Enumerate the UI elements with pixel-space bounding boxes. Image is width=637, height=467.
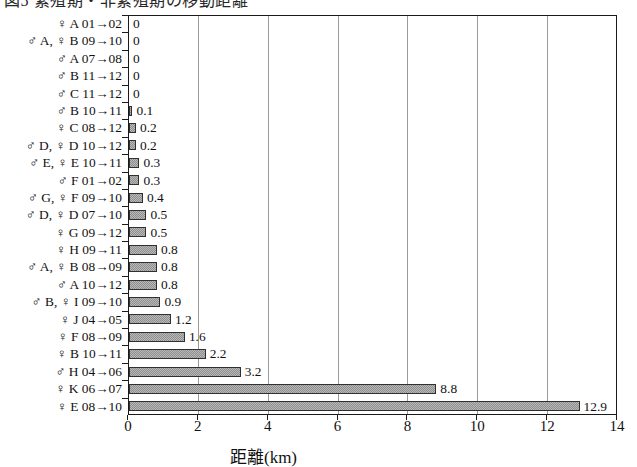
y-axis-tick bbox=[122, 137, 128, 138]
x-axis-title-text: 距離(km) bbox=[230, 443, 297, 467]
bar-row-label: ♂ A 07→08 bbox=[0, 52, 122, 65]
bar bbox=[129, 140, 136, 150]
bar-value-label: 0.3 bbox=[143, 156, 160, 169]
bar-row-label: ♂ H 04→06 bbox=[0, 365, 122, 378]
y-axis-tick bbox=[122, 380, 128, 381]
y-axis-tick bbox=[122, 172, 128, 173]
bar-value-label: 0.3 bbox=[143, 174, 160, 187]
x-tick-label-2: 2 bbox=[194, 419, 202, 434]
bar bbox=[129, 123, 136, 133]
y-axis-tick bbox=[122, 258, 128, 259]
y-axis-tick bbox=[122, 224, 128, 225]
bar-row-label: ♂ F 01→02 bbox=[0, 174, 122, 187]
bar-row-label: ♂ C 11→12 bbox=[0, 87, 122, 100]
bar-row-label: ♀ G 09→12 bbox=[0, 226, 122, 239]
bar-row-label: ♂ E, ♀ E 10→11 bbox=[0, 156, 122, 169]
y-axis-tick bbox=[122, 328, 128, 329]
bar-row-label: ♂ A, ♀ B 09→10 bbox=[0, 34, 122, 47]
y-axis-tick bbox=[122, 67, 128, 68]
bar-value-label: 0.5 bbox=[150, 226, 167, 239]
x-tick-label-8: 8 bbox=[404, 419, 412, 434]
bar-value-label: 0.2 bbox=[140, 121, 157, 134]
bar-row-label: ♂ A 10→12 bbox=[0, 278, 122, 291]
bar-value-label: 1.6 bbox=[189, 330, 206, 343]
bar bbox=[129, 297, 160, 307]
bar-row-label: ♂ D, ♀ D 10→12 bbox=[0, 139, 122, 152]
y-axis-tick bbox=[122, 85, 128, 86]
x-axis-title: 距離(km) bbox=[0, 443, 637, 467]
bar-chart: ♀ A 01→020♂ A, ♀ B 09→100♂ A 07→080♂ B 1… bbox=[0, 0, 637, 467]
x-tick-label-4: 4 bbox=[264, 419, 272, 434]
bar-row-label: ♀ E 08→10 bbox=[0, 400, 122, 413]
bar-value-label: 0.8 bbox=[161, 243, 178, 256]
bar-row-label: ♀ C 08→12 bbox=[0, 121, 122, 134]
y-axis-tick bbox=[122, 119, 128, 120]
bar-value-label: 2.2 bbox=[210, 347, 227, 360]
bar-value-label: 0.8 bbox=[161, 278, 178, 291]
y-axis-tick bbox=[122, 189, 128, 190]
bar-row-label: ♂ B, ♀ I 09→10 bbox=[0, 295, 122, 308]
bar bbox=[129, 384, 436, 394]
bar bbox=[129, 332, 185, 342]
y-axis-tick bbox=[122, 276, 128, 277]
bar bbox=[129, 227, 146, 237]
bar-value-label: 0.2 bbox=[140, 139, 157, 152]
bar bbox=[129, 401, 580, 411]
bar bbox=[129, 106, 132, 116]
bar-value-label: 0.1 bbox=[136, 104, 153, 117]
x-tick-label-14: 14 bbox=[610, 419, 625, 434]
bar-row-label: ♂ D, ♀ D 07→10 bbox=[0, 208, 122, 221]
bar-value-label: 8.8 bbox=[440, 382, 457, 395]
bar-rows: ♀ A 01→020♂ A, ♀ B 09→100♂ A 07→080♂ B 1… bbox=[0, 15, 637, 415]
y-axis-tick bbox=[122, 363, 128, 364]
y-axis-tick bbox=[122, 50, 128, 51]
y-axis-tick bbox=[122, 32, 128, 33]
bar-row-label: ♂ G, ♀ F 09→10 bbox=[0, 191, 122, 204]
bar-value-label: 0 bbox=[133, 52, 140, 65]
bar-value-label: 0.8 bbox=[161, 260, 178, 273]
bar-value-label: 0 bbox=[133, 87, 140, 100]
bar-row-label: ♀ K 06→07 bbox=[0, 382, 122, 395]
bar bbox=[129, 349, 206, 359]
bar bbox=[129, 210, 146, 220]
x-tick-label-0: 0 bbox=[124, 419, 132, 434]
bar-row-label: ♂ A, ♀ B 08→09 bbox=[0, 260, 122, 273]
bar-value-label: 0.5 bbox=[150, 208, 167, 221]
x-tick-label-10: 10 bbox=[470, 419, 485, 434]
bar bbox=[129, 314, 171, 324]
y-axis-tick bbox=[122, 15, 128, 16]
bar bbox=[129, 175, 139, 185]
bar bbox=[129, 158, 139, 168]
bar-row-label: ♀ J 04→05 bbox=[0, 313, 122, 326]
bar-row-label: ♀ A 01→02 bbox=[0, 17, 122, 30]
bar-row-label: ♂ B 10→11 bbox=[0, 104, 122, 117]
bar-value-label: 0 bbox=[133, 34, 140, 47]
bar-value-label: 0.4 bbox=[147, 191, 164, 204]
x-tick-label-6: 6 bbox=[334, 419, 342, 434]
bar-value-label: 1.2 bbox=[175, 313, 192, 326]
bar bbox=[129, 193, 143, 203]
bar bbox=[129, 245, 157, 255]
y-axis-tick bbox=[122, 311, 128, 312]
bar-value-label: 0 bbox=[133, 69, 140, 82]
y-axis-tick bbox=[122, 102, 128, 103]
x-tick-label-12: 12 bbox=[540, 419, 555, 434]
bar-row-label: ♀ F 08→09 bbox=[0, 330, 122, 343]
bar-value-label: 0.9 bbox=[164, 295, 181, 308]
bar-value-label: 0 bbox=[133, 17, 140, 30]
bar-value-label: 3.2 bbox=[245, 365, 262, 378]
bar-row-label: ♀ B 10→11 bbox=[0, 347, 122, 360]
bar-row-label: ♂ B 11→12 bbox=[0, 69, 122, 82]
bar-value-label: 12.9 bbox=[584, 400, 607, 413]
bar bbox=[129, 262, 157, 272]
y-axis-tick bbox=[122, 206, 128, 207]
x-axis-tick-labels: 02468101214 bbox=[0, 419, 637, 439]
y-axis-tick bbox=[122, 398, 128, 399]
y-axis-tick bbox=[122, 154, 128, 155]
bar bbox=[129, 280, 157, 290]
bar bbox=[129, 367, 241, 377]
y-axis-tick bbox=[122, 345, 128, 346]
y-axis-tick bbox=[122, 241, 128, 242]
y-axis-tick bbox=[122, 293, 128, 294]
bar-row-label: ♀ H 09→11 bbox=[0, 243, 122, 256]
